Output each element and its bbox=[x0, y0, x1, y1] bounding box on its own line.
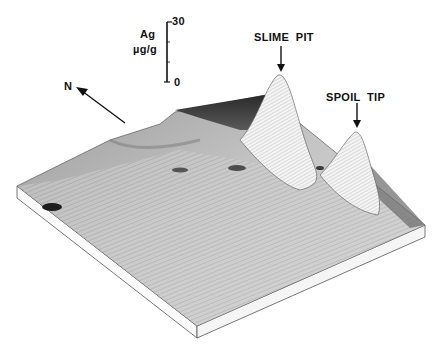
north-arrow bbox=[76, 87, 125, 123]
scale-min-label: 0 bbox=[174, 76, 180, 88]
scale-bar bbox=[164, 22, 172, 82]
scale-max-label: 30 bbox=[172, 15, 185, 27]
scale-unit-label: µg/g bbox=[133, 43, 157, 55]
north-label: N bbox=[64, 80, 72, 92]
slime-pit-arrow bbox=[277, 46, 285, 72]
scale-element-label: Ag bbox=[140, 28, 155, 40]
spoil-tip-label: SPOIL TIP bbox=[326, 91, 385, 103]
hollow-west bbox=[42, 203, 62, 211]
spoil-tip-arrow bbox=[353, 103, 361, 128]
slime-pit-label: SLIME PIT bbox=[254, 31, 314, 43]
surface-figure bbox=[0, 0, 440, 359]
